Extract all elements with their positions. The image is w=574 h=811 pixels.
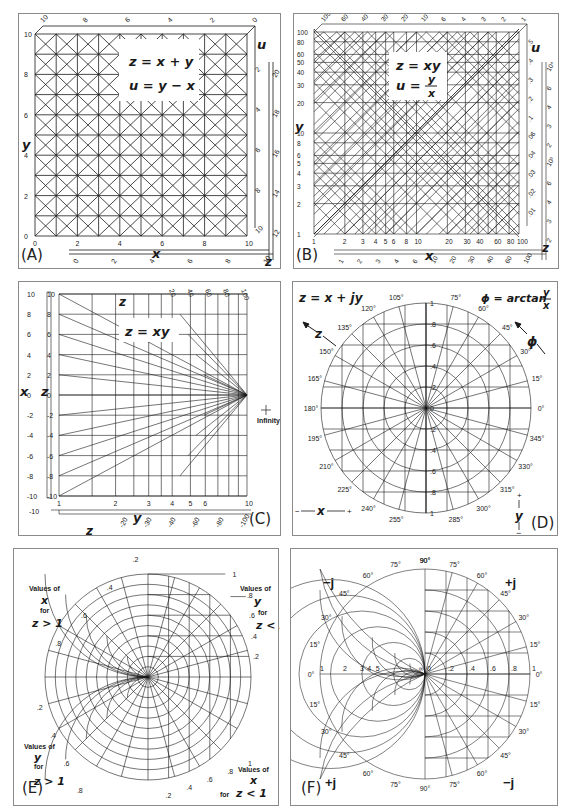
tick-label: 30 [466, 254, 476, 264]
tick-label: 80 [222, 288, 231, 298]
panel-f-label: (F) [301, 779, 321, 797]
tick-label: 1 [312, 238, 316, 245]
tick-label: 1 [337, 258, 345, 265]
tick-label: 0° [538, 405, 545, 412]
tick-label: 0 [27, 392, 31, 399]
tick-label: 4 [27, 352, 31, 359]
tick-label: 1 [519, 15, 527, 23]
panel-f: −j +j +j −j 12345∞0.2.4.6.810°15°15°30°3… [290, 548, 558, 806]
tick-label: .8 [77, 787, 83, 794]
panel-e: Values of x for z > 1 Values of y for z … [13, 548, 279, 806]
tick-label: 0° [536, 671, 543, 678]
svg-text:for: for [258, 609, 268, 616]
panel-d-z-arrow-label: z [314, 327, 323, 341]
panel-c-infinity-label: Infinity point [257, 417, 282, 425]
tick-label: .2 [430, 384, 436, 391]
svg-text:for: for [34, 763, 44, 770]
panel-b-eq-num: y [428, 73, 436, 86]
tick-label: 4 [47, 352, 51, 359]
tick-label: 6 [124, 16, 132, 24]
panel-d-eq-right-den: x [542, 300, 550, 311]
tick-label: 12 [271, 228, 281, 238]
tick-label: -20 [118, 516, 129, 528]
tick-label: 1 [320, 665, 324, 672]
panel-b-nomogram: z = xy u = y x x y u z 12345681020304060… [294, 14, 560, 270]
tick-label: 75° [390, 781, 401, 788]
tick-label: 5 [376, 665, 380, 672]
tick-label: 315° [500, 486, 515, 493]
tick-label: 50 [297, 59, 305, 66]
panel-a-y-label: y [22, 137, 31, 152]
tick-label: 10 [245, 240, 253, 247]
tick-label: .2 [448, 665, 454, 672]
panel-a-nomogram: z = x + y u = y − x x y u z 024681002468… [19, 14, 282, 270]
tick-label: 2 [499, 15, 507, 23]
tick-label: 8 [47, 311, 51, 318]
tick-label: -40 [166, 516, 177, 528]
tick-label: 210° [319, 463, 334, 470]
y-axis-legend: + y − [515, 491, 524, 537]
tick-label: ∞ [419, 665, 424, 672]
tick-label: -80 [214, 516, 225, 528]
tick-label: 15° [530, 641, 541, 648]
tick-label: 4 [166, 16, 174, 24]
tick-label: 2 [24, 193, 28, 200]
tick-label: -4 [27, 432, 33, 439]
tick-label: 30 [379, 14, 389, 23]
tick-label: 75° [449, 781, 460, 788]
svg-text:x: x [40, 594, 49, 607]
tick-label: 30° [321, 614, 332, 621]
tick-label: 8 [24, 71, 28, 78]
tick-label: .2 [133, 556, 139, 563]
tick-label: 60 [297, 51, 305, 58]
tick-label: 100 [522, 251, 534, 264]
tick-label: 6 [24, 112, 28, 119]
tick-label: 60° [363, 770, 374, 777]
tick-label: 80 [507, 238, 515, 245]
tick-label: 45° [339, 752, 350, 759]
svg-text:Values of: Values of [24, 743, 55, 750]
tick-label: .2 [430, 426, 436, 433]
panel-a-label: (A) [21, 246, 43, 264]
tick-label: 30 [463, 238, 471, 245]
tick-label: 60° [477, 770, 488, 777]
y-legend-label: y [515, 509, 524, 523]
svg-text:for: for [40, 607, 50, 614]
tick-label: 2 [297, 201, 301, 208]
tick-label: 3 [374, 258, 382, 265]
tick-label: 10 [24, 31, 32, 38]
svg-text:for: for [220, 791, 230, 798]
tick-label: 45° [502, 324, 513, 331]
tick-label: 0 [72, 258, 80, 265]
panel-d-polar-chart: z = x + jy ϕ = arctan y x z ϕ − x + + y … [293, 282, 559, 537]
tick-label: 4 [367, 665, 371, 672]
tick-label: -8 [27, 473, 33, 480]
tick-label: 0 [430, 405, 434, 412]
quadrant-top-right: +j [505, 575, 516, 590]
tick-label: -6 [47, 453, 53, 460]
tick-label: 60° [363, 572, 374, 579]
tick-label: .8 [55, 640, 61, 647]
tick-label: 2 [27, 372, 31, 379]
tick-label: 20 [399, 14, 409, 23]
tick-label: 30° [518, 728, 529, 735]
tick-label: 10 [27, 291, 35, 298]
tick-label: .6 [490, 665, 496, 672]
tick-label: 15° [532, 375, 543, 382]
tick-label: 30° [321, 728, 332, 735]
panel-b: z = xy u = y x x y u z 12345681020304060… [293, 13, 559, 269]
panel-d-eq-right-num: y [543, 287, 550, 298]
tick-label: 6 [203, 500, 207, 507]
tick-label: 40 [485, 254, 495, 264]
tick-label: 0 [24, 233, 28, 240]
tick-label: 10 [297, 130, 305, 137]
tick-label: 16 [271, 148, 281, 158]
panel-a-eq-z: z = x + y [128, 54, 194, 69]
tick-label: .8 [430, 489, 436, 496]
tick-label: 40 [359, 14, 369, 23]
tick-label: -10 [29, 508, 39, 515]
tick-label: 8 [224, 258, 232, 265]
tick-label: 195° [308, 435, 323, 442]
tick-label: 30 [297, 82, 305, 89]
tick-label: 40 [186, 288, 195, 298]
